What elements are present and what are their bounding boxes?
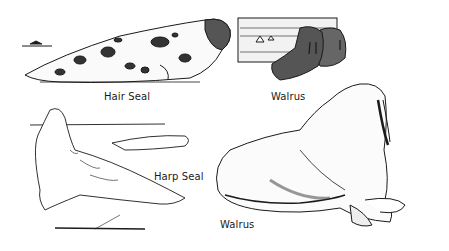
seal-walrus-illustration: Hair Seal Walrus Harp Seal Walrus bbox=[0, 0, 449, 251]
walrus-top-label: Walrus bbox=[271, 91, 305, 102]
harp-seal-drawing bbox=[30, 109, 189, 229]
hair-seal-drawing bbox=[22, 19, 230, 82]
harp-seal-label: Harp Seal bbox=[154, 171, 204, 182]
walrus-pair-scene bbox=[238, 18, 346, 80]
large-walrus-drawing bbox=[217, 84, 406, 226]
walrus-bottom-label: Walrus bbox=[220, 219, 254, 230]
hair-seal-label: Hair Seal bbox=[104, 91, 150, 102]
